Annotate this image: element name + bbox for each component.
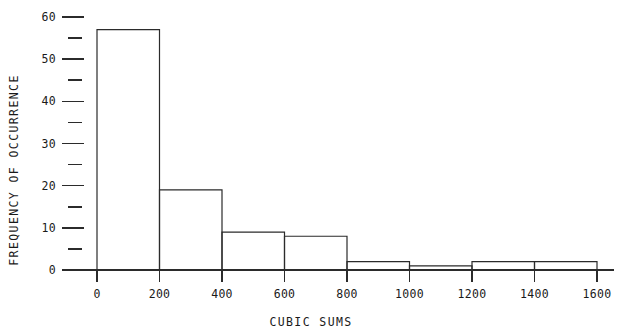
x-axis-tick-labels: 02004006008001000120014001600 xyxy=(93,287,611,301)
x-axis-tick-label: 1400 xyxy=(520,287,549,301)
histogram-bar xyxy=(347,262,410,270)
x-axis-tick-label: 1000 xyxy=(395,287,424,301)
y-axis-tick-label: 0 xyxy=(49,263,56,277)
x-axis-tick-label: 400 xyxy=(211,287,233,301)
x-axis-tick-label: 800 xyxy=(336,287,358,301)
y-axis-tick-label: 30 xyxy=(42,137,56,151)
histogram-chart: 0102030405060 02004006008001000120014001… xyxy=(0,0,622,333)
histogram-bar xyxy=(97,30,160,270)
histogram-bar xyxy=(285,236,348,270)
y-axis xyxy=(62,17,84,270)
y-axis-tick-label: 40 xyxy=(42,94,56,108)
histogram-bars xyxy=(97,30,597,270)
x-axis-title: CUBIC SUMS xyxy=(269,315,352,329)
y-axis-tick-label: 20 xyxy=(42,179,56,193)
y-axis-tick-labels: 0102030405060 xyxy=(42,10,56,277)
x-axis-tick-label: 1200 xyxy=(458,287,487,301)
y-axis-title: FREQUENCY OF OCCURRENCE xyxy=(7,74,21,265)
y-axis-tick-label: 60 xyxy=(42,10,56,24)
x-axis-tick-label: 600 xyxy=(274,287,296,301)
x-axis-tick-label: 200 xyxy=(149,287,171,301)
histogram-bar xyxy=(222,232,285,270)
y-axis-tick-label: 50 xyxy=(42,52,56,66)
y-axis-tick-label: 10 xyxy=(42,221,56,235)
chart-canvas: 0102030405060 02004006008001000120014001… xyxy=(0,0,622,333)
x-axis-tick-label: 1600 xyxy=(583,287,612,301)
histogram-bar xyxy=(535,262,598,270)
histogram-bar xyxy=(472,262,535,270)
x-axis-tick-label: 0 xyxy=(93,287,100,301)
histogram-bar xyxy=(160,190,223,270)
x-axis xyxy=(62,270,614,282)
